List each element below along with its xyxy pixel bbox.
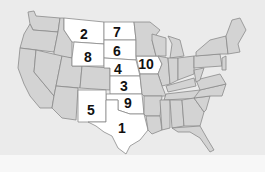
bottom-strip [0, 155, 265, 172]
state-indiana [168, 58, 178, 84]
state-arizona [52, 86, 78, 120]
us-map: 1 2 3 4 5 6 7 8 9 10 [0, 0, 265, 155]
label-south-dakota: 6 [113, 43, 121, 59]
state-alabama [170, 100, 184, 128]
label-montana: 2 [80, 26, 88, 42]
state-louisiana [146, 116, 162, 134]
state-ohio [178, 56, 194, 80]
label-texas: 1 [118, 120, 126, 136]
label-nebraska: 4 [114, 61, 122, 77]
state-colorado [80, 66, 110, 90]
label-wyoming: 8 [84, 49, 92, 65]
state-mississippi [160, 100, 170, 130]
state-arkansas [144, 96, 162, 116]
state-new-jersey [222, 56, 226, 70]
state-new-england [226, 18, 246, 54]
label-north-dakota: 7 [113, 24, 121, 40]
state-new-york [196, 36, 228, 56]
label-kansas: 3 [120, 78, 128, 94]
label-new-mexico: 5 [87, 102, 95, 118]
label-oklahoma: 9 [124, 95, 132, 111]
state-michigan [168, 36, 184, 58]
state-florida [172, 126, 214, 152]
label-iowa: 10 [138, 56, 154, 72]
